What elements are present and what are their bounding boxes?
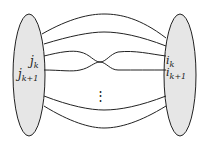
strand-k1: [44, 62, 166, 71]
strand-1: [42, 14, 166, 38]
strand-6: [44, 106, 166, 128]
strand-k: [44, 51, 166, 62]
ellipsis: ⋮: [94, 88, 107, 103]
strand-2: [44, 32, 166, 46]
braid-diagram: ⋮ jk jk+1 ik ik+1: [0, 0, 208, 144]
strands: [42, 14, 166, 128]
